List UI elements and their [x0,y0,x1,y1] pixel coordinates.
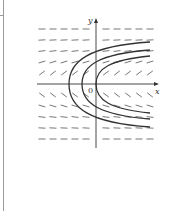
slope-mark [125,61,132,63]
slope-mark [50,51,57,52]
slope-mark [114,117,121,118]
slope-mark [61,61,68,63]
slope-mark [147,93,153,97]
x-axis-label: x [155,87,160,96]
solution-curve-middle [82,50,150,119]
slope-mark [103,117,110,118]
solution-curve-outer [69,42,150,127]
slope-mark [72,93,78,97]
slope-mark [61,93,67,97]
origin-label: 0 [88,86,93,95]
slope-mark [136,71,142,75]
slope-mark [83,105,90,107]
slope-mark [125,105,132,107]
slope-mark [147,71,153,75]
slope-mark [61,51,68,52]
slope-mark [136,61,143,63]
y-axis-arrow-icon [94,18,98,23]
slope-mark [83,51,90,52]
slope-mark [136,105,143,107]
slope-mark [103,93,109,97]
slope-mark [39,93,45,97]
slope-mark [147,117,154,118]
slope-mark [114,93,120,97]
slope-mark [147,105,154,107]
slope-mark [39,61,46,63]
slope-mark [83,61,90,63]
slope-mark [50,105,57,107]
slope-mark [50,71,56,75]
slope-mark [147,61,154,63]
slope-mark [72,71,78,75]
slope-mark [39,117,46,118]
slope-mark [103,61,110,63]
slope-mark [72,51,79,52]
slope-mark [125,71,131,75]
slope-mark [50,117,57,118]
slope-mark [39,71,45,75]
slope-mark [103,71,109,75]
slope-mark [39,51,46,52]
solution-curves [69,42,150,127]
slope-mark [50,61,57,63]
slope-mark [114,51,121,52]
slope-mark [125,51,132,52]
slope-field-diagram: x y 0 [0,0,171,211]
slope-mark [125,93,131,97]
solution-curve-inner [96,56,150,113]
slope-mark [136,93,142,97]
slope-mark [61,117,68,118]
slope-mark [83,117,90,118]
slope-mark [72,117,79,118]
slope-mark [50,93,56,97]
slope-mark [103,51,110,52]
slope-mark [39,105,46,107]
x-axis-arrow-icon [154,82,159,86]
slope-mark [114,71,120,75]
y-axis-label: y [87,16,93,25]
slope-mark [61,105,68,107]
slope-mark [61,71,67,75]
slope-mark [103,105,110,107]
